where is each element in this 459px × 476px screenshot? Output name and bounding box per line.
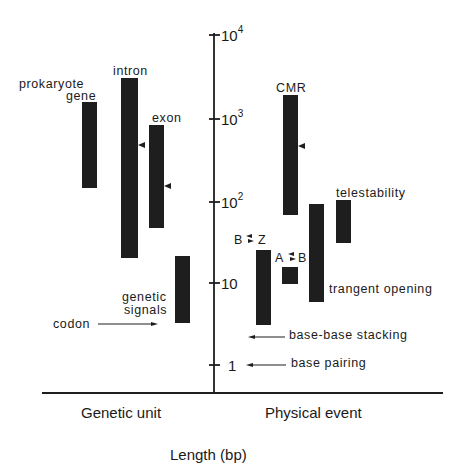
tick-label-1: 1 — [228, 358, 236, 373]
tick-label-10: 10 — [221, 276, 238, 291]
bar-a-b — [282, 267, 298, 284]
ab-right-arrow-icon — [290, 257, 296, 261]
bz-left-arrow-icon — [246, 234, 252, 238]
ab-left-arrow-icon — [288, 252, 294, 256]
label-signals: signals — [124, 304, 167, 317]
cmr-marker-icon — [298, 143, 305, 149]
tick-label-1000: 103 — [221, 111, 243, 127]
label-ab-b: B — [298, 252, 307, 265]
label-genetic: genetic — [122, 291, 167, 304]
label-codon: codon — [53, 318, 90, 331]
bz-right-arrow-icon — [248, 239, 254, 243]
intron-marker-icon — [138, 142, 145, 148]
label-cmr: CMR — [276, 82, 306, 95]
bar-trangent-opening — [309, 204, 324, 302]
codon-arrowhead-icon — [151, 322, 158, 326]
label-intron: intron — [113, 65, 148, 78]
exon-marker-icon — [164, 183, 171, 189]
label-base-base-stacking: base-base stacking — [289, 329, 408, 342]
axis-title: Length (bp) — [170, 447, 247, 462]
label-ab-a: A — [275, 252, 284, 265]
length-scale-chart: 104 103 102 10 1 prokaryote gene intron … — [0, 0, 459, 476]
bar-exon — [149, 125, 164, 228]
label-exon: exon — [152, 112, 182, 125]
tick-label-100: 102 — [221, 194, 243, 210]
bar-intron — [121, 78, 138, 258]
axes-svg — [0, 0, 459, 476]
pairing-arrowhead-icon — [246, 363, 253, 367]
stacking-arrowhead-icon — [248, 335, 255, 339]
bar-telestability — [336, 200, 351, 243]
label-gene: gene — [66, 90, 96, 103]
label-bz-b: B — [234, 234, 243, 247]
label-telestability: telestability — [336, 187, 406, 200]
label-trangent-opening: trangent opening — [329, 283, 432, 296]
bar-b-z — [256, 250, 271, 325]
bar-cmr — [283, 95, 298, 215]
bar-prokaryote-gene — [82, 102, 97, 188]
label-base-pairing: base pairing — [291, 357, 366, 370]
label-bz-z: Z — [258, 234, 266, 247]
group-label-physical-event: Physical event — [265, 405, 362, 420]
tick-label-10000: 104 — [221, 27, 243, 43]
group-label-genetic-unit: Genetic unit — [81, 405, 161, 420]
bar-genetic-signals — [175, 256, 190, 323]
